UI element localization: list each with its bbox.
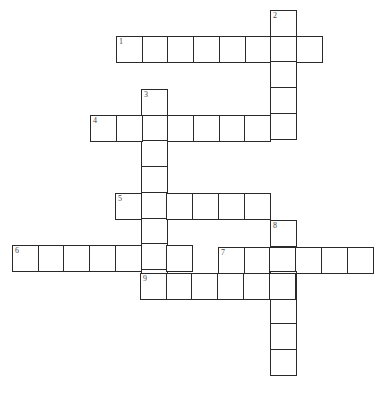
crossword-cell[interactable] <box>270 113 297 140</box>
clue-number: 8 <box>273 221 277 231</box>
crossword-cell[interactable] <box>244 247 271 274</box>
crossword-cell[interactable]: 3 <box>141 89 168 116</box>
clue-number: 7 <box>221 248 225 258</box>
crossword-cell[interactable] <box>244 193 271 220</box>
crossword-cell[interactable] <box>141 115 168 142</box>
crossword-cell[interactable] <box>245 36 272 63</box>
crossword-cell[interactable] <box>166 193 193 220</box>
crossword-cell[interactable] <box>219 36 246 63</box>
crossword-cell[interactable] <box>142 36 169 63</box>
crossword-grid: 123456789 <box>0 0 383 397</box>
crossword-cell[interactable] <box>193 115 220 142</box>
crossword-cell[interactable] <box>141 218 168 245</box>
clue-number: 1 <box>119 37 123 47</box>
clue-number: 4 <box>93 116 97 126</box>
clue-number: 2 <box>273 11 277 21</box>
crossword-cell[interactable] <box>219 115 246 142</box>
crossword-cell[interactable]: 7 <box>218 247 245 274</box>
crossword-cell[interactable]: 9 <box>140 273 167 300</box>
clue-number: 6 <box>15 246 19 256</box>
crossword-cell[interactable]: 1 <box>116 36 143 63</box>
crossword-cell[interactable]: 2 <box>270 10 297 37</box>
crossword-cell[interactable] <box>270 349 297 376</box>
crossword-cell[interactable] <box>269 247 296 274</box>
crossword-cell[interactable] <box>218 193 245 220</box>
crossword-cell[interactable] <box>243 273 270 300</box>
crossword-cell[interactable] <box>270 61 297 88</box>
crossword-cell[interactable] <box>166 273 193 300</box>
crossword-cell[interactable]: 6 <box>12 245 39 272</box>
crossword-cell[interactable] <box>141 166 168 193</box>
crossword-cell[interactable] <box>269 273 296 300</box>
crossword-cell[interactable] <box>141 243 168 270</box>
crossword-cell[interactable] <box>270 323 297 350</box>
crossword-cell[interactable]: 5 <box>115 193 142 220</box>
clue-number: 5 <box>118 194 122 204</box>
crossword-cell[interactable] <box>63 245 90 272</box>
crossword-cell[interactable] <box>167 36 194 63</box>
crossword-cell[interactable] <box>244 115 271 142</box>
crossword-cell[interactable] <box>115 245 142 272</box>
crossword-cell[interactable] <box>192 193 219 220</box>
crossword-cell[interactable] <box>89 245 116 272</box>
crossword-cell[interactable] <box>270 36 297 63</box>
crossword-cell[interactable] <box>295 247 322 274</box>
crossword-cell[interactable] <box>270 87 297 114</box>
crossword-cell[interactable] <box>217 273 244 300</box>
crossword-cell[interactable] <box>116 115 143 142</box>
crossword-cell[interactable] <box>347 247 374 274</box>
crossword-cell[interactable] <box>296 36 323 63</box>
crossword-cell[interactable] <box>270 297 297 324</box>
crossword-cell[interactable] <box>166 245 193 272</box>
crossword-cell[interactable] <box>141 192 168 219</box>
crossword-cell[interactable] <box>191 273 218 300</box>
crossword-cell[interactable]: 8 <box>270 220 297 247</box>
crossword-cell[interactable] <box>167 115 194 142</box>
clue-number: 9 <box>143 274 147 284</box>
crossword-cell[interactable] <box>321 247 348 274</box>
crossword-cell[interactable]: 4 <box>90 115 117 142</box>
clue-number: 3 <box>144 90 148 100</box>
crossword-cell[interactable] <box>38 245 65 272</box>
crossword-cell[interactable] <box>193 36 220 63</box>
crossword-cell[interactable] <box>141 140 168 167</box>
